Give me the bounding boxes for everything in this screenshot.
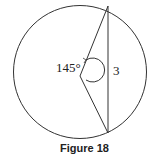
chord-label: 3	[113, 63, 120, 78]
angle-label: 145°	[56, 60, 81, 75]
radius-bottom	[80, 76, 108, 133]
figure-caption: Figure 18	[60, 142, 109, 154]
angle-arc	[86, 58, 105, 82]
figure-diagram: 145° 3 Figure 18	[0, 0, 165, 161]
